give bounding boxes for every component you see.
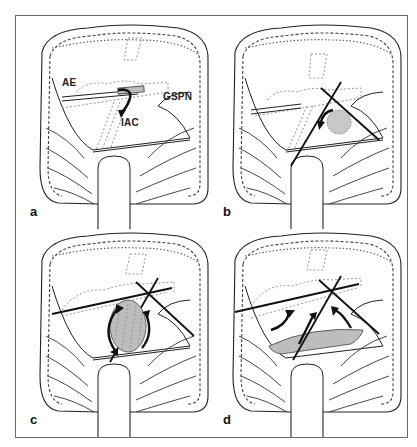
panel-label-c: c (30, 412, 37, 427)
brain-sulci (239, 128, 389, 204)
panel-a: AE GSPN IAC a (18, 18, 214, 229)
arrow-right-icon (335, 310, 351, 328)
dashed-landmarks (251, 250, 361, 318)
retractor-line (235, 284, 359, 312)
panel-a-drawing (18, 18, 214, 229)
panel-d: d (211, 226, 407, 437)
panel-c: c (18, 226, 214, 437)
retractor-line (52, 288, 172, 314)
panel-b: b (211, 18, 407, 229)
panel-label-b: b (223, 204, 231, 219)
panel-d-drawing (211, 226, 407, 437)
arrow-left-icon (271, 314, 289, 330)
panel-b-drawing (211, 18, 407, 229)
temporal-floor (245, 78, 383, 204)
brain-sulci (46, 128, 196, 204)
tumor-circle (327, 110, 351, 134)
label-iac: IAC (121, 117, 139, 128)
figure-frame: AE GSPN IAC a (15, 15, 408, 438)
arrowhead-icon (317, 120, 325, 130)
label-gspn: GSPN (163, 91, 192, 102)
skull-outline (233, 25, 401, 229)
panel-label-a: a (30, 204, 37, 219)
label-ae: AE (62, 77, 76, 88)
retractor (62, 86, 144, 101)
arrowhead-icon (285, 310, 295, 318)
panel-c-drawing (18, 226, 214, 437)
panel-label-d: d (223, 412, 231, 427)
dashed-landmarks (62, 38, 168, 150)
